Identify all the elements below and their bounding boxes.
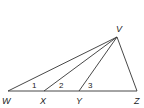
angle-label-1: 1 — [32, 81, 37, 90]
angle-label-2: 2 — [59, 81, 64, 90]
point-label-y: Y — [76, 96, 83, 106]
segments — [8, 37, 137, 91]
point-label-v: V — [116, 24, 123, 34]
point-labels: V W X Y Z — [2, 24, 140, 106]
triangle-diagram: V W X Y Z 1 2 3 — [0, 0, 144, 108]
segment-vx — [44, 37, 117, 91]
point-label-w: W — [2, 96, 12, 106]
angle-label-3: 3 — [88, 81, 93, 90]
segment-vz — [117, 37, 137, 91]
segment-vy — [79, 37, 117, 91]
angle-labels: 1 2 3 — [32, 81, 93, 90]
point-label-x: X — [39, 96, 47, 106]
point-label-z: Z — [133, 96, 140, 106]
